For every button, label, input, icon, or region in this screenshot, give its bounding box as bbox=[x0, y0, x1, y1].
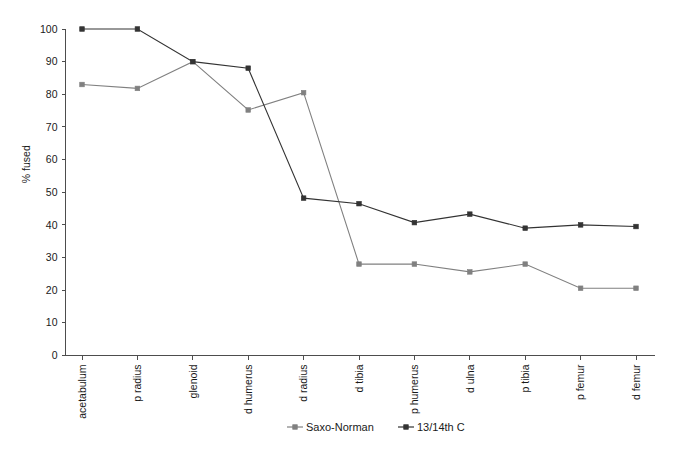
y-tick-label: 70 bbox=[46, 121, 58, 133]
data-point-marker bbox=[80, 27, 85, 32]
legend-label: 13/14th C bbox=[417, 421, 465, 433]
x-axis-category-labels: acetabulump radiusglenoidd humerusd radi… bbox=[76, 364, 642, 419]
y-axis-tick-group bbox=[62, 29, 66, 356]
data-point-marker bbox=[634, 224, 639, 229]
x-category-label: p radius bbox=[131, 365, 143, 402]
line-chart: 0102030405060708090100 % fused acetabulu… bbox=[0, 0, 685, 451]
y-tick-label: 90 bbox=[46, 55, 58, 67]
data-point-marker bbox=[246, 66, 251, 71]
x-category-label: p tibia bbox=[519, 364, 531, 392]
x-axis-tick-group bbox=[82, 356, 636, 360]
y-tick-label: 60 bbox=[46, 153, 58, 165]
data-point-marker bbox=[634, 286, 639, 291]
legend-item: 13/14th C bbox=[398, 421, 465, 433]
x-category-label: p humerus bbox=[408, 365, 420, 415]
y-tick-label: 100 bbox=[40, 23, 58, 35]
series-line bbox=[82, 62, 636, 289]
y-tick-label: 30 bbox=[46, 251, 58, 263]
x-category-label: d tibia bbox=[353, 364, 365, 392]
y-tick-label: 40 bbox=[46, 219, 58, 231]
data-point-marker bbox=[523, 226, 528, 231]
data-series-layer bbox=[80, 27, 639, 291]
data-point-marker bbox=[246, 108, 251, 113]
data-point-marker bbox=[135, 27, 140, 32]
data-point-marker bbox=[412, 220, 417, 225]
y-axis-tick-labels: 0102030405060708090100 bbox=[40, 23, 58, 362]
data-point-marker bbox=[523, 262, 528, 267]
y-tick-label: 10 bbox=[46, 316, 58, 328]
data-point-marker bbox=[468, 270, 473, 275]
data-point-marker bbox=[191, 59, 196, 64]
legend-label: Saxo-Norman bbox=[306, 421, 374, 433]
y-tick-label: 20 bbox=[46, 284, 58, 296]
data-point-marker bbox=[412, 262, 417, 267]
x-category-label: d humerus bbox=[242, 365, 254, 415]
x-category-label: d femur bbox=[630, 364, 642, 400]
x-category-label: d ulna bbox=[464, 364, 476, 393]
x-category-label: d radius bbox=[297, 365, 309, 402]
series-saxo-norman bbox=[80, 59, 639, 290]
series-line bbox=[82, 29, 636, 228]
legend-swatch-marker bbox=[404, 425, 409, 430]
data-point-marker bbox=[357, 262, 362, 267]
data-point-marker bbox=[578, 286, 583, 291]
chart-legend: Saxo-Norman13/14th C bbox=[287, 421, 465, 433]
data-point-marker bbox=[578, 223, 583, 228]
data-point-marker bbox=[468, 212, 473, 217]
y-tick-label: 50 bbox=[46, 186, 58, 198]
x-category-label: acetabulum bbox=[76, 364, 88, 419]
legend-item: Saxo-Norman bbox=[287, 421, 374, 433]
x-category-label: p femur bbox=[574, 364, 586, 400]
data-point-marker bbox=[301, 90, 306, 95]
legend-swatch-marker bbox=[293, 425, 298, 430]
data-point-marker bbox=[80, 82, 85, 87]
data-point-marker bbox=[301, 196, 306, 201]
x-category-label: glenoid bbox=[187, 364, 199, 398]
chart-page: 0102030405060708090100 % fused acetabulu… bbox=[0, 0, 685, 451]
y-axis-title: % fused bbox=[20, 145, 32, 183]
y-tick-label: 0 bbox=[52, 349, 58, 361]
series-13-14th-c bbox=[80, 27, 639, 231]
data-point-marker bbox=[135, 86, 140, 91]
y-tick-label: 80 bbox=[46, 88, 58, 100]
data-point-marker bbox=[357, 201, 362, 206]
